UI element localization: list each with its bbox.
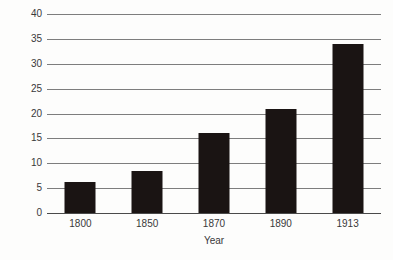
x-axis-tick-label: 1913 bbox=[336, 219, 358, 229]
x-axis-tick-label: 1890 bbox=[270, 219, 292, 229]
bar-group: 1800 bbox=[47, 14, 114, 213]
y-axis-tick-label: 0 bbox=[36, 208, 42, 218]
bar-chart: 0510152025303540 18001850187018901913 Ye… bbox=[0, 0, 393, 260]
x-axis-tick-label: 1800 bbox=[69, 219, 91, 229]
bar bbox=[198, 133, 229, 213]
bar-group: 1890 bbox=[247, 14, 314, 213]
y-axis-tick-label: 15 bbox=[31, 133, 42, 143]
bar-group: 1870 bbox=[181, 14, 248, 213]
x-axis-title: Year bbox=[47, 236, 381, 246]
y-axis-tick-label: 5 bbox=[36, 183, 42, 193]
y-axis-tick-label: 40 bbox=[31, 9, 42, 19]
bar bbox=[332, 44, 363, 213]
bar-group: 1850 bbox=[114, 14, 181, 213]
y-axis-tick-label: 10 bbox=[31, 158, 42, 168]
bar bbox=[132, 171, 163, 213]
x-axis-line: 0 bbox=[47, 213, 381, 214]
bar-group: 1913 bbox=[314, 14, 381, 213]
bars-group: 18001850187018901913 bbox=[47, 14, 381, 213]
plot-area: 0510152025303540 18001850187018901913 bbox=[47, 14, 381, 213]
y-axis-tick-label: 20 bbox=[31, 109, 42, 119]
x-axis-tick-label: 1870 bbox=[203, 219, 225, 229]
bar bbox=[265, 109, 296, 213]
x-axis-tick-label: 1850 bbox=[136, 219, 158, 229]
bar bbox=[65, 182, 96, 213]
y-axis-tick-label: 30 bbox=[31, 59, 42, 69]
y-axis-tick-label: 25 bbox=[31, 84, 42, 94]
y-axis-tick-label: 35 bbox=[31, 34, 42, 44]
